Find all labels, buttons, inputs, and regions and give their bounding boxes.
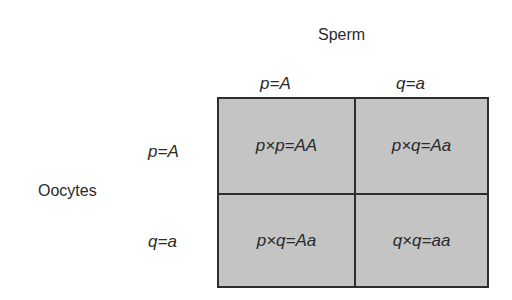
- column-header-allele-A: p=A: [260, 75, 291, 92]
- punnett-square-grid: p×p=AA p×q=Aa p×q=Aa q×q=aa: [217, 97, 489, 288]
- cell-Aa-top: p×q=Aa: [356, 99, 487, 195]
- cell-AA: p×p=AA: [219, 99, 356, 195]
- row-header-allele-a: q=a: [148, 233, 177, 250]
- sperm-axis-title: Sperm: [318, 27, 365, 43]
- cell-aa: q×q=aa: [356, 195, 487, 286]
- oocytes-axis-title: Oocytes: [38, 183, 97, 199]
- row-header-allele-A: p=A: [148, 143, 179, 160]
- cell-Aa-bottom: p×q=Aa: [219, 195, 356, 286]
- column-header-allele-a: q=a: [396, 75, 425, 92]
